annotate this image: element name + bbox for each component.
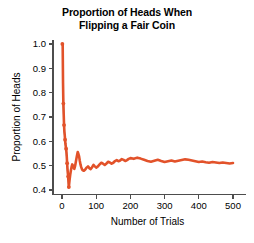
y-axis-title: Proportion of Heads	[11, 73, 22, 162]
data-point-marker	[67, 185, 71, 189]
plot-area: 0.40.50.60.70.80.91.0 0100200300400500 N…	[0, 0, 254, 243]
data-point-marker	[64, 147, 68, 151]
x-tick-label: 300	[157, 200, 173, 211]
x-axis-title: Number of Trials	[111, 216, 184, 227]
x-tick-label: 0	[59, 200, 64, 211]
y-tick-label: 0.8	[33, 87, 46, 98]
data-point-marker	[65, 161, 69, 165]
y-tick-label: 0.4	[33, 184, 46, 195]
x-tick-label: 100	[88, 200, 104, 211]
x-tick-label: 500	[225, 200, 241, 211]
data-point-marker	[60, 42, 64, 46]
x-tick-label: 200	[122, 200, 138, 211]
y-tick-label: 0.5	[33, 160, 46, 171]
y-axis-ticks: 0.40.50.60.70.80.91.0	[33, 38, 53, 195]
chart-figure: Proportion of Heads When Flipping a Fair…	[0, 0, 254, 243]
x-tick-label: 400	[191, 200, 207, 211]
data-point-marker	[62, 123, 66, 127]
series-line-running-proportion	[62, 44, 233, 187]
x-axis-ticks: 0100200300400500	[59, 195, 241, 212]
y-tick-label: 1.0	[33, 38, 46, 49]
data-point-marker	[63, 138, 67, 142]
y-tick-label: 0.7	[33, 111, 46, 122]
y-tick-label: 0.9	[33, 63, 46, 74]
data-point-marker	[66, 175, 70, 179]
data-point-marker	[61, 102, 65, 106]
y-tick-label: 0.6	[33, 136, 46, 147]
